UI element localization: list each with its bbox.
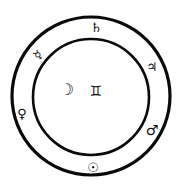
saturn-icon: ♄	[90, 21, 102, 34]
gemini-icon: ♊	[90, 84, 103, 98]
mars-icon: ♂	[146, 123, 159, 137]
moon-icon: ☽	[60, 82, 74, 98]
venus-icon: ♀	[17, 107, 27, 120]
sun-icon: ☉	[87, 161, 99, 174]
jupiter-icon: ♃	[147, 61, 158, 73]
astrological-seal-diagram: ☽ ♊ ♄ ♃ ♂ ☉ ♀ ☿	[0, 0, 182, 189]
